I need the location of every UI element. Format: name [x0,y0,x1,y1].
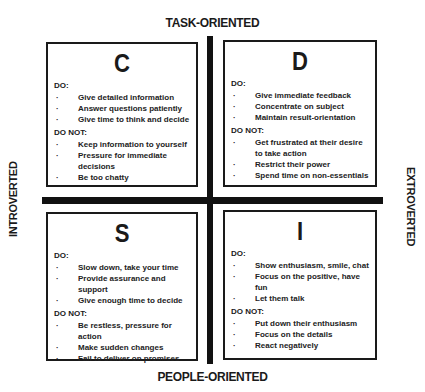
do-list: Show enthusiasm, smile, chat Focus on th… [231,260,369,304]
list-item: Concentrate on subject [231,101,369,112]
horizontal-axis-bar [42,197,383,204]
list-item: Keep information to yourself [54,139,190,150]
list-item: Focus on the positive, have fun [231,271,369,293]
do-list: Slow down, take your time Provide assura… [54,262,190,306]
list-item: Fail to deliver on promises [54,353,190,364]
list-item: Give immediate feedback [231,90,369,101]
list-item: Provide assurance and support [54,273,190,295]
axis-label-introverted: INTROVERTED [7,167,19,237]
list-item: Focus on the details [231,329,369,340]
do-not-heading: DO NOT: [231,126,369,136]
quadrant-letter: C [64,48,180,78]
do-not-heading: DO NOT: [54,309,190,319]
do-heading: DO: [231,79,369,89]
list-item: Pressure for immediate decisions [54,150,190,172]
do-heading: DO: [54,81,190,91]
list-item: Restrict their power [231,159,369,170]
quadrant-c: C DO: Give detailed information Answer q… [46,42,198,187]
list-item: Be too chatty [54,172,190,183]
do-heading: DO: [231,249,369,259]
list-item: Maintain result-orientation [231,112,369,123]
quadrant-s: S DO: Slow down, take your time Provide … [46,212,198,361]
do-not-list: Be restless, pressure for action Make su… [54,320,190,364]
list-item: Answer questions patiently [54,103,190,114]
do-not-list: Get frustrated at their desire to take a… [231,137,369,181]
do-list: Give immediate feedback Concentrate on s… [231,90,369,123]
do-not-list: Keep information to yourself Pressure fo… [54,139,190,183]
quadrant-letter: I [241,216,358,246]
quadrant-letter: S [64,218,180,248]
quadrant-d: D DO: Give immediate feedback Concentrat… [223,40,377,187]
do-not-heading: DO NOT: [231,307,369,317]
list-item: Get frustrated at their desire to take a… [231,137,369,159]
do-list: Give detailed information Answer questio… [54,92,190,125]
quadrant-i: I DO: Show enthusiasm, smile, chat Focus… [223,210,377,360]
list-item: Give detailed information [54,92,190,103]
do-not-heading: DO NOT: [54,128,190,138]
list-item: Give enough time to decide [54,295,190,306]
quadrant-letter: D [241,46,358,76]
list-item: Spend time on non-essentials [231,170,369,181]
do-heading: DO: [54,251,190,261]
axis-label-extroverted: EXTROVERTED [405,167,417,237]
list-item: Slow down, take your time [54,262,190,273]
list-item: Put down their enthusiasm [231,318,369,329]
do-not-list: Put down their enthusiasm Focus on the d… [231,318,369,351]
axis-label-task-oriented: TASK-ORIENTED [0,16,425,30]
list-item: Make sudden changes [54,342,190,353]
list-item: Give time to think and decide [54,114,190,125]
list-item: Let them talk [231,293,369,304]
list-item: Show enthusiasm, smile, chat [231,260,369,271]
axis-label-people-oriented: PEOPLE-ORIENTED [0,370,425,384]
list-item: Be restless, pressure for action [54,320,190,342]
list-item: React negatively [231,340,369,351]
